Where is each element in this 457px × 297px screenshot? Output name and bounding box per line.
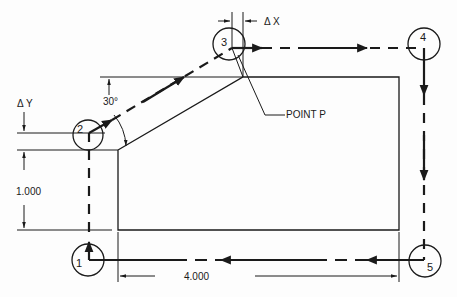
- position-5-label: 5: [427, 261, 433, 273]
- delta-x-label: Δ X: [264, 16, 280, 27]
- position-2-label: 2: [77, 123, 83, 135]
- dimension-lines: [17, 12, 399, 282]
- angle-label: 30°: [103, 96, 118, 107]
- height-dimension-label: 1.000: [16, 186, 41, 197]
- delta-y-label: Δ Y: [17, 98, 33, 109]
- tool-path-diagram: 1 2 3 4 5 Δ X Δ Y 30° POINT P 1.000 4.00…: [0, 0, 457, 297]
- position-circles: [72, 28, 441, 277]
- position-3-circle: [213, 28, 245, 60]
- tool-path: [89, 48, 424, 260]
- position-1-label: 1: [76, 257, 82, 269]
- position-3-label: 3: [221, 36, 227, 48]
- width-dimension-label: 4.000: [184, 271, 209, 282]
- point-p-label: POINT P: [286, 109, 326, 120]
- position-4-label: 4: [420, 31, 426, 43]
